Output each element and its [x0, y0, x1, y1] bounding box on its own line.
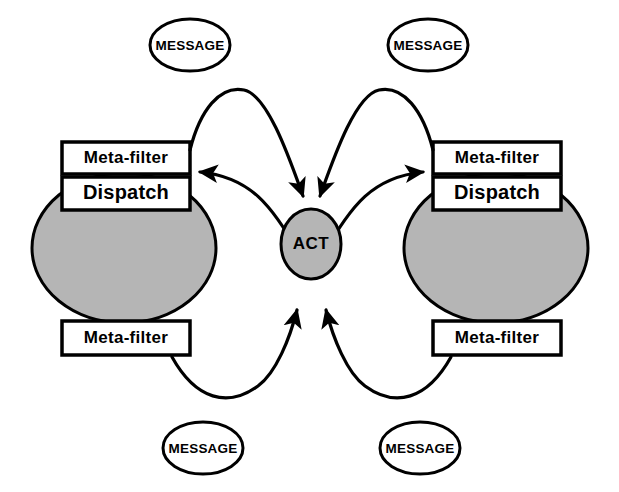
diagram-svg: Meta-filter Dispatch Meta-filter Meta-fi… — [0, 0, 619, 492]
edge-right-top-out — [320, 89, 433, 196]
message-bottom-left[interactable]: MESSAGE — [163, 422, 243, 474]
message-bottom-right[interactable]: MESSAGE — [380, 422, 460, 474]
right-dispatch-label: Dispatch — [454, 181, 540, 203]
message-top-left-label: MESSAGE — [156, 38, 225, 53]
left-agent-top-filter-box[interactable]: Meta-filter — [62, 142, 190, 174]
diagram-canvas: Meta-filter Dispatch Meta-filter Meta-fi… — [0, 0, 619, 492]
left-top-filter-label: Meta-filter — [84, 148, 169, 167]
message-top-right-label: MESSAGE — [394, 38, 463, 53]
left-agent-dispatch-box[interactable]: Dispatch — [62, 177, 190, 210]
left-agent-bottom-filter-box[interactable]: Meta-filter — [62, 321, 190, 355]
right-agent-group[interactable]: Meta-filter Dispatch Meta-filter — [404, 142, 588, 355]
left-bottom-filter-label: Meta-filter — [84, 328, 169, 347]
right-top-filter-label: Meta-filter — [455, 148, 540, 167]
act-label: ACT — [293, 234, 330, 253]
message-bottom-right-label: MESSAGE — [386, 441, 455, 456]
edge-left-top-out — [190, 89, 303, 196]
left-dispatch-label: Dispatch — [83, 181, 169, 203]
act-node[interactable]: ACT — [281, 209, 341, 279]
message-top-left[interactable]: MESSAGE — [150, 19, 230, 71]
message-bottom-left-label: MESSAGE — [169, 441, 238, 456]
right-bottom-filter-label: Meta-filter — [455, 328, 540, 347]
right-agent-bottom-filter-box[interactable]: Meta-filter — [433, 321, 561, 355]
right-agent-top-filter-box[interactable]: Meta-filter — [433, 142, 561, 174]
right-agent-dispatch-box[interactable]: Dispatch — [433, 177, 561, 210]
left-agent-group[interactable]: Meta-filter Dispatch Meta-filter — [32, 142, 216, 355]
message-top-right[interactable]: MESSAGE — [388, 19, 468, 71]
